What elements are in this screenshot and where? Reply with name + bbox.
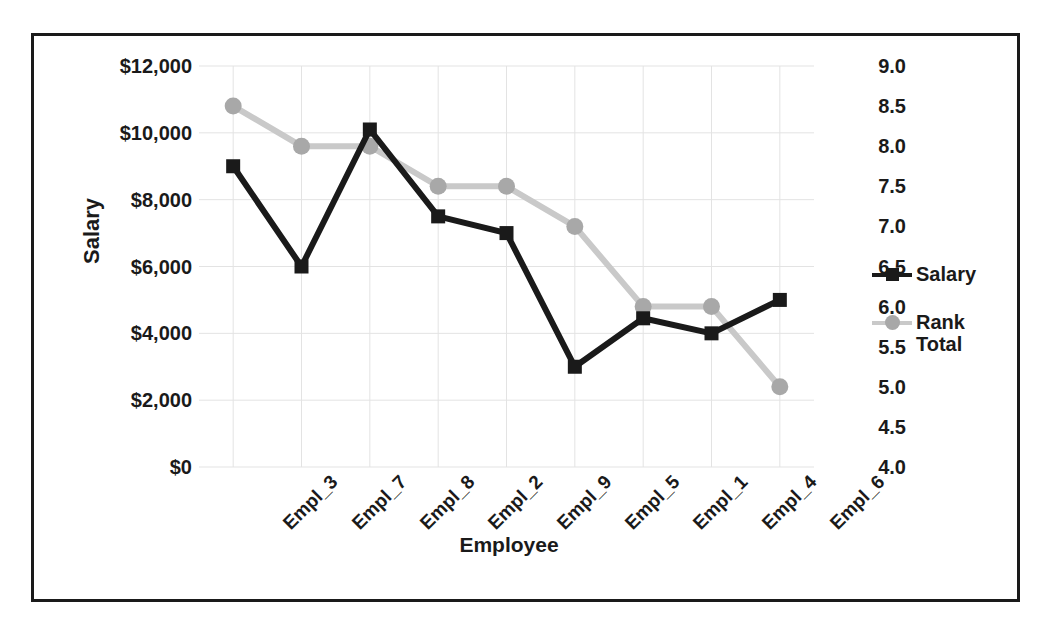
data-point-marker — [636, 311, 650, 325]
x-axis-tick-label: Empl_9 — [552, 471, 615, 534]
legend-entry[interactable]: Salary — [872, 264, 1022, 286]
x-axis-tick-label: Empl_1 — [689, 471, 752, 534]
data-point-marker — [566, 218, 583, 235]
data-point-marker — [498, 178, 515, 195]
data-point-marker — [295, 260, 309, 274]
x-axis-tick-label: Empl_8 — [416, 471, 479, 534]
data-point-marker — [500, 226, 514, 240]
legend-swatch — [872, 264, 912, 286]
chart-legend: SalaryRankTotal — [872, 264, 1022, 381]
data-point-marker — [430, 178, 447, 195]
legend-label: Salary — [916, 264, 976, 286]
x-axis-tick-label: Empl_6 — [826, 471, 889, 534]
y-axis-right-tick-label: 8.0 — [824, 135, 906, 158]
plot-svg — [199, 66, 814, 467]
legend-entry[interactable]: RankTotal — [872, 312, 1022, 355]
y-axis-right-tick-label: 8.5 — [824, 95, 906, 118]
y-axis-right-tick-label: 9.0 — [824, 55, 906, 78]
legend-marker-square-icon — [886, 268, 899, 281]
data-point-marker — [226, 159, 240, 173]
data-point-marker — [771, 378, 788, 395]
x-axis-tick-label: Empl_3 — [279, 471, 342, 534]
y-axis-right-tick-label: 7.5 — [824, 175, 906, 198]
x-axis-tick-label: Empl_5 — [621, 471, 684, 534]
y-axis-tick-label: $10,000 — [52, 121, 192, 144]
legend-swatch — [872, 312, 912, 334]
x-axis-tick-label: Empl_4 — [757, 471, 820, 534]
data-point-marker — [225, 98, 242, 115]
y-axis-tick-label: $8,000 — [52, 188, 192, 211]
data-point-marker — [293, 138, 310, 155]
plot-area — [199, 66, 814, 467]
x-axis-tick-label: Empl_7 — [347, 471, 410, 534]
y-axis-tick-label: $6,000 — [52, 255, 192, 278]
legend-marker-circle-icon — [885, 315, 900, 330]
x-axis-tick-label: Empl_2 — [484, 471, 547, 534]
data-point-marker — [431, 209, 445, 223]
y-axis-left-tick-labels: $12,000$10,000$8,000$6,000$4,000$2,000$0 — [44, 66, 192, 467]
y-axis-right-tick-label: 4.0 — [824, 456, 906, 479]
y-axis-tick-label: $12,000 — [52, 55, 192, 78]
chart-frame: Salary $12,000$10,000$8,000$6,000$4,000$… — [31, 33, 1020, 602]
legend-label: RankTotal — [916, 312, 965, 355]
data-point-marker — [703, 298, 720, 315]
x-axis-title: Employee — [189, 533, 829, 557]
data-point-marker — [773, 293, 787, 307]
y-axis-tick-label: $2,000 — [52, 389, 192, 412]
y-axis-right-tick-label: 4.5 — [824, 415, 906, 438]
data-point-marker — [705, 326, 719, 340]
y-axis-tick-label: $0 — [52, 456, 192, 479]
data-point-marker — [363, 122, 377, 136]
data-point-marker — [568, 360, 582, 374]
y-axis-right-tick-label: 7.0 — [824, 215, 906, 238]
y-axis-tick-label: $4,000 — [52, 322, 192, 345]
legend-label-line2: Total — [916, 334, 965, 356]
